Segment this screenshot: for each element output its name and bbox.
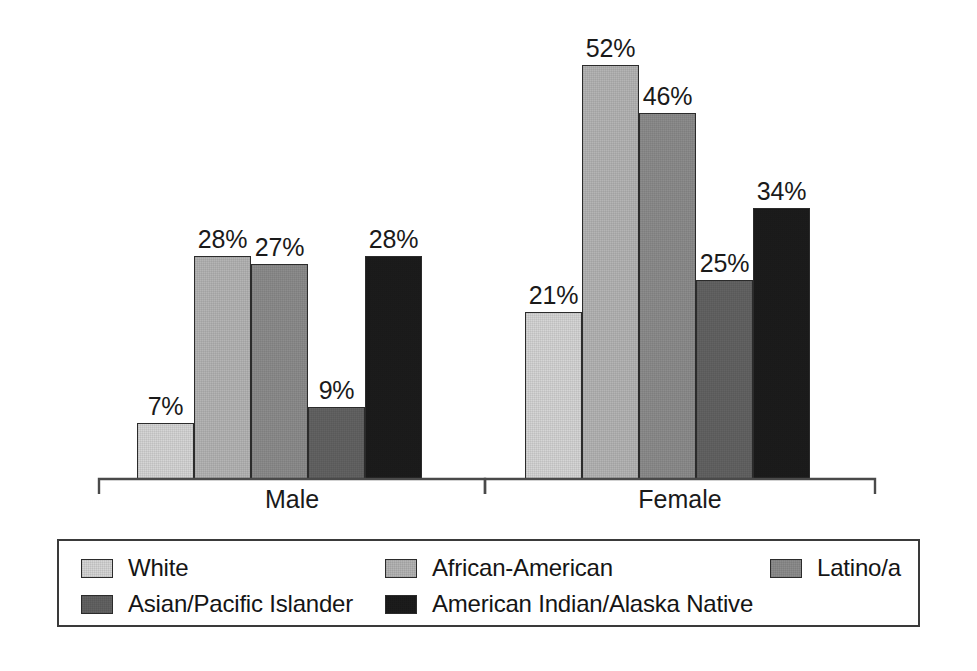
bar-value-label: 46% [643,84,692,109]
legend-item[interactable]: African-American [385,550,613,586]
legend-swatch-icon [385,595,417,614]
plot-area: 7%28%27%9%28%21%52%46%25%34% [0,0,977,530]
legend-item[interactable]: White [81,550,188,586]
legend-swatch-icon [81,559,113,578]
bar-chart: 7%28%27%9%28%21%52%46%25%34% MaleFemale … [0,0,977,671]
bar-group-female: 21%52%46%25%34% [525,49,810,479]
legend-item-label: Asian/Pacific Islander [128,592,353,616]
axis-group-label-male: Male [265,487,319,512]
bar-value-label: 34% [757,179,806,204]
bar[interactable]: 28% [194,256,251,479]
bar[interactable]: 7% [137,423,194,479]
bar-value-label: 9% [319,378,355,403]
bar-value-label: 27% [255,235,304,260]
bar-value-label: 28% [369,227,418,252]
bar[interactable]: 52% [582,65,639,479]
bar[interactable]: 34% [753,208,810,479]
bar-group-male: 7%28%27%9%28% [137,49,422,479]
bar[interactable]: 9% [308,407,365,479]
bar[interactable]: 28% [365,256,422,479]
bar-value-label: 7% [148,394,184,419]
legend-item-label: African-American [432,556,613,580]
legend-item-label: White [128,556,188,580]
legend-swatch-icon [81,595,113,614]
legend-item[interactable]: Latino/a [770,550,901,586]
legend-item-label: American Indian/Alaska Native [432,592,753,616]
legend-item[interactable]: Asian/Pacific Islander [81,586,353,622]
bar[interactable]: 27% [251,264,308,479]
bar-value-label: 52% [586,36,635,61]
legend-item-label: Latino/a [817,556,901,580]
bar[interactable]: 46% [639,113,696,479]
legend-row: WhiteAfrican-AmericanLatino/a [59,550,918,586]
axis-group-label-female: Female [638,487,721,512]
legend: WhiteAfrican-AmericanLatino/aAsian/Pacif… [57,539,920,627]
legend-row: Asian/Pacific IslanderAmerican Indian/Al… [59,586,918,622]
bar-value-label: 25% [700,251,749,276]
legend-swatch-icon [770,559,802,578]
bar[interactable]: 21% [525,312,582,479]
legend-item[interactable]: American Indian/Alaska Native [385,586,753,622]
bar-value-label: 28% [198,227,247,252]
bar-value-label: 21% [529,283,578,308]
bar[interactable]: 25% [696,280,753,479]
legend-swatch-icon [385,559,417,578]
